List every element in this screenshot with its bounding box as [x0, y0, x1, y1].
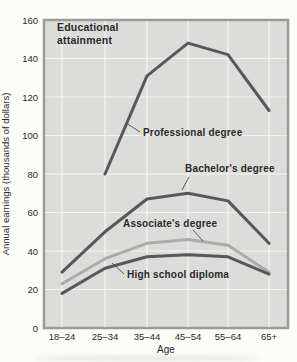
series-label-associate-s-degree: Associate's degree — [123, 218, 218, 229]
series-label-bachelor-s-degree: Bachelor's degree — [185, 163, 275, 174]
y-tick-label: 160 — [22, 15, 38, 26]
earnings-line-chart: 02040608010012014016018–2425–3435–4445–5… — [0, 0, 297, 362]
chart-title: Educational — [57, 21, 119, 33]
y-axis-title: Annual earnings (thousands of dollars) — [0, 93, 11, 256]
series-label-professional-degree: Professional degree — [143, 127, 243, 138]
chart-title: attainment — [57, 34, 112, 46]
x-tick-label: 18–24 — [49, 331, 75, 342]
series-label-high-school-diploma: High school diploma — [127, 269, 229, 280]
y-tick-label: 40 — [27, 246, 38, 257]
y-tick-label: 0 — [33, 323, 38, 334]
page-shadow-artifact — [34, 356, 260, 361]
x-tick-label: 25–34 — [92, 331, 118, 342]
chart-figure: 02040608010012014016018–2425–3435–4445–5… — [0, 0, 297, 362]
x-tick-label: 35–44 — [134, 331, 160, 342]
y-tick-label: 20 — [27, 284, 38, 295]
y-tick-label: 120 — [22, 92, 38, 103]
x-tick-label: 55–64 — [215, 331, 241, 342]
y-tick-label: 60 — [27, 207, 38, 218]
x-tick-label: 65+ — [261, 331, 278, 342]
y-tick-label: 140 — [22, 53, 38, 64]
y-tick-label: 80 — [27, 169, 38, 180]
y-tick-label: 100 — [22, 130, 38, 141]
x-tick-label: 45–54 — [175, 331, 201, 342]
x-axis-title: Age — [157, 344, 175, 355]
